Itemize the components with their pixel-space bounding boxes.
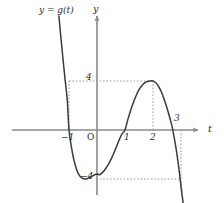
x-axis-label: t bbox=[208, 124, 212, 134]
x-tick-label-neg-one: −1 bbox=[61, 133, 74, 142]
y-tick-label-four: 4 bbox=[86, 73, 92, 82]
x-tick-label-three: 3 bbox=[174, 114, 180, 123]
x-tick-label-one: 1 bbox=[124, 133, 130, 142]
function-curve bbox=[59, 16, 184, 203]
origin-label: O bbox=[87, 133, 94, 142]
y-axis-label: y bbox=[93, 4, 98, 14]
y-tick-label-neg-four: −4 bbox=[80, 172, 93, 181]
plot-canvas bbox=[0, 0, 224, 203]
x-tick-label-two: 2 bbox=[150, 133, 156, 142]
function-graph-figure: y = g(t) y t O −1 1 2 3 4 −4 bbox=[0, 0, 224, 203]
curve-label: y = g(t) bbox=[39, 6, 74, 15]
